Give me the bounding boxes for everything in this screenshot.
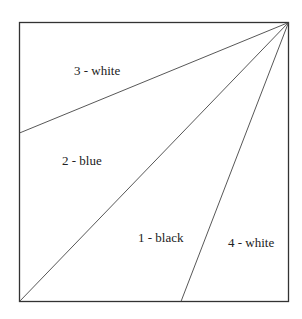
divider-line-to-bottom-edge: [181, 23, 289, 302]
region-label-3: 3 - white: [74, 63, 120, 78]
region-label-2: 2 - blue: [62, 153, 102, 168]
square-partition-diagram: 3 - white 2 - blue 1 - black 4 - white: [0, 0, 302, 319]
diagram-canvas: 3 - white 2 - blue 1 - black 4 - white: [0, 0, 302, 319]
divider-line-to-bottom-left-corner: [20, 23, 289, 302]
divider-line-to-left-edge: [20, 23, 289, 134]
region-label-1: 1 - black: [138, 230, 184, 245]
region-label-4: 4 - white: [228, 235, 274, 250]
